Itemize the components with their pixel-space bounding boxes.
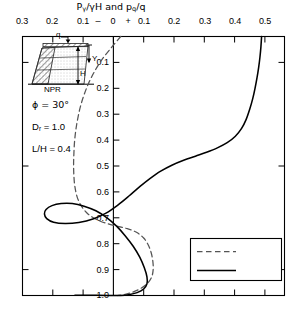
chart-canvas	[0, 0, 300, 309]
y-axis-ticks-left	[23, 62, 29, 269]
chart-figure: Pγ/γH and pq/q 0.3 0.2 0.1 – 0 + 0.1 0.2…	[0, 0, 300, 309]
x-axis-ticks	[23, 37, 265, 43]
y-axis-ticks-center	[113, 62, 119, 295]
inset-surcharge-bar	[43, 44, 88, 47]
inset-surcharge-leader	[61, 37, 70, 43]
inset-diagram	[28, 37, 94, 84]
legend-box	[191, 239, 282, 281]
